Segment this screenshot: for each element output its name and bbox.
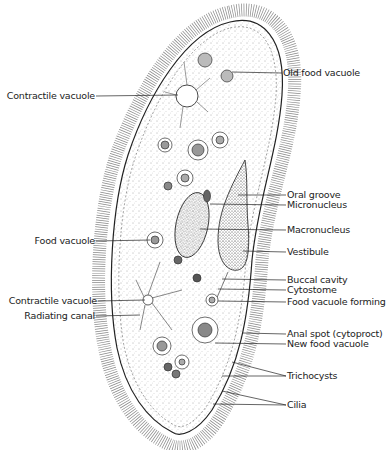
label-old-food-vacuole: Old food vacuole: [283, 68, 360, 78]
label-contractile-vacuole-top: Contractile vacuole: [7, 91, 95, 101]
label-vestibule: Vestibule: [287, 247, 329, 257]
label-new-food-vacuole: New food vacuole: [287, 339, 369, 349]
label-micronucleus: Micronucleus: [287, 200, 347, 210]
label-radiating-canal: Radiating canal: [24, 311, 95, 321]
label-cytostome: Cytostome: [287, 285, 337, 295]
label-cilia: Cilia: [287, 400, 306, 410]
label-macronucleus: Macronucleus: [287, 225, 350, 235]
label-food-vacuole: Food vacuole: [35, 236, 95, 246]
label-food-vacuole-forming: Food vacuole forming: [287, 297, 386, 307]
label-trichocysts: Trichocysts: [287, 371, 337, 381]
label-contractile-vacuole-bottom: Contractile vacuole: [9, 296, 97, 306]
micronucleus-shape: [204, 190, 211, 202]
contractile-vacuole-top-shape: [176, 85, 198, 107]
